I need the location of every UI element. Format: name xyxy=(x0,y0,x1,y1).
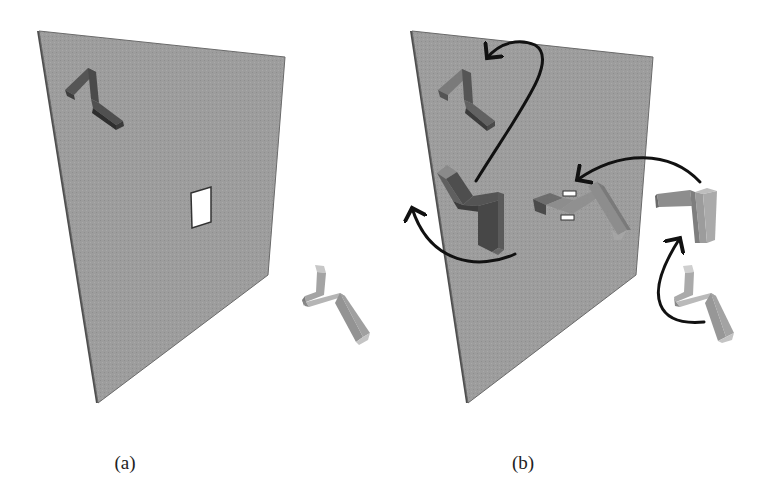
piece-bottom-right xyxy=(674,265,734,343)
piece-right-rotated xyxy=(655,188,717,243)
arrow-bottom-right-to-right xyxy=(658,238,704,322)
figure: (a) xyxy=(0,0,772,498)
panel-b-illustration xyxy=(0,0,772,498)
panel-b-caption: (b) xyxy=(493,452,553,474)
panel-b: (b) xyxy=(0,0,772,498)
